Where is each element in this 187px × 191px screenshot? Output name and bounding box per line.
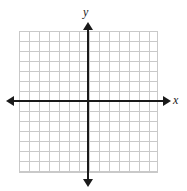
x-axis-label: x xyxy=(173,94,178,106)
y-axis-label: y xyxy=(83,6,88,18)
coordinate-plane-figure: y x xyxy=(0,0,187,191)
x-axis-left-arrow-icon xyxy=(6,96,14,106)
y-axis-line xyxy=(87,29,89,182)
y-axis-up-arrow-icon xyxy=(83,22,93,30)
x-axis-line xyxy=(9,100,169,102)
y-axis-down-arrow-icon xyxy=(83,179,93,187)
x-axis-right-arrow-icon xyxy=(163,96,171,106)
